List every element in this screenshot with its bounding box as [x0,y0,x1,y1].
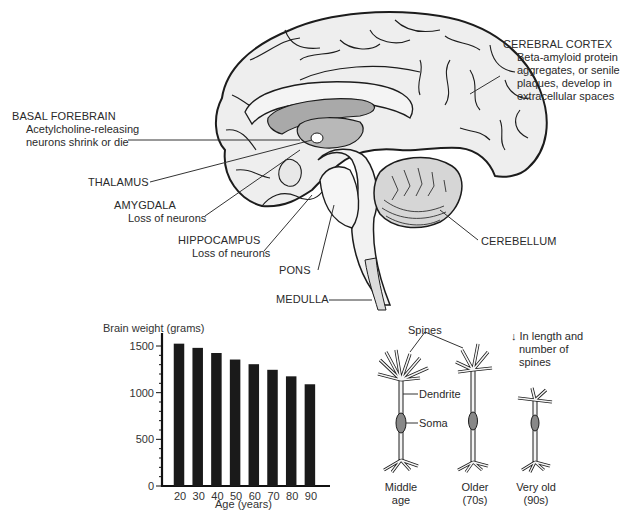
label-spine-decline-note: ↓ In length and number of spines [511,330,583,369]
down-arrow-icon: ↓ [511,330,517,342]
label-dendrite: Dendrite [419,388,461,401]
caption-very-old: Very old (90s) [511,481,561,507]
neuron-very-old [518,388,552,472]
caption-older: Older (70s) [455,481,495,507]
label-soma: Soma [419,417,448,430]
caption-middle-age: Middle age [381,481,421,507]
neuron-older [456,344,492,472]
label-spines: Spines [408,324,442,337]
neuron-middle-age [378,350,428,472]
